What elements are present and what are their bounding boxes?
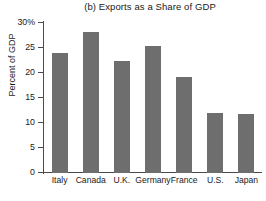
y-tick-mark (38, 22, 43, 23)
bar (52, 53, 68, 173)
x-tick-label: U.K. (113, 175, 130, 185)
bar (83, 32, 99, 173)
y-tick-label: 15 (25, 92, 35, 102)
x-tick-label: Germany (135, 175, 170, 185)
y-tick-label: 25 (25, 42, 35, 52)
y-tick-mark (38, 47, 43, 48)
chart-title: (b) Exports as a Share of GDP (0, 1, 266, 12)
plot-area (44, 22, 262, 173)
x-tick-label: Japan (235, 175, 258, 185)
x-tick-label: U.S. (207, 175, 224, 185)
x-tick-label: Canada (76, 175, 106, 185)
y-tick-mark (38, 122, 43, 123)
y-axis-title: Percent of GDP (7, 20, 17, 110)
y-tick-label: 10 (25, 117, 35, 127)
bar (114, 61, 130, 173)
bar (145, 46, 161, 174)
y-tick-mark (38, 97, 43, 98)
x-tick-label: Italy (52, 175, 68, 185)
y-tick-mark (38, 147, 43, 148)
y-tick-label: 20 (25, 67, 35, 77)
bar (238, 114, 254, 174)
y-tick-mark (38, 72, 43, 73)
chart-figure: (b) Exports as a Share of GDP Percent of… (0, 0, 266, 201)
y-tick-label: 0 (30, 167, 35, 177)
bar (176, 77, 192, 173)
y-tick-label: 30% (17, 17, 35, 27)
bar (207, 113, 223, 173)
y-tick-label: 5 (30, 142, 35, 152)
x-tick-label: France (171, 175, 198, 185)
y-tick-mark (38, 172, 43, 173)
